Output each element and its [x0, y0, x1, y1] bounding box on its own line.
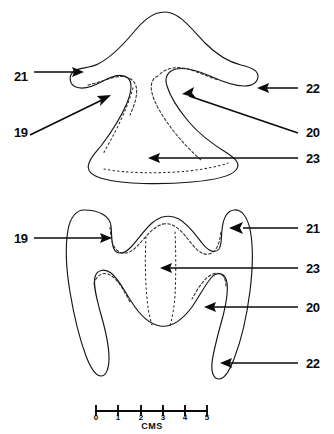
leader-bottom-21	[229, 222, 298, 234]
top-inner-contour-center	[151, 76, 201, 160]
label-bottom-23: 23	[306, 261, 320, 276]
bottom-specimen-outline	[66, 210, 252, 379]
scale-unit-label: CMS	[141, 421, 163, 431]
scale-label-0: 0	[94, 413, 99, 422]
label-top-19: 19	[14, 125, 28, 140]
bottom-inner-median-left	[145, 237, 152, 325]
leader-top-20	[182, 87, 298, 133]
bottom-inner-crown-right	[163, 224, 221, 255]
label-top-23: 23	[306, 151, 320, 166]
bottom-inner-lobe-left	[94, 274, 130, 302]
arrowhead-bottom-21	[229, 222, 243, 234]
scale-label-4: 4	[183, 413, 188, 422]
scale-bar: 0 1 2 3 4 5 CMS	[94, 405, 210, 431]
leader-bottom-20	[204, 302, 298, 312]
bottom-inner-crown-left	[110, 224, 163, 253]
leader-top-21	[34, 67, 84, 77]
top-inner-base-line	[104, 163, 228, 173]
top-specimen-view: 21 19 22 20 23	[14, 12, 320, 184]
specimen-illustration-svg: 21 19 22 20 23	[0, 0, 334, 434]
label-top-21: 21	[14, 69, 28, 84]
leader-top-19	[30, 95, 111, 135]
leader-bottom-22	[220, 358, 298, 368]
label-bottom-20: 20	[306, 300, 320, 315]
leader-bottom-19	[34, 233, 112, 243]
bottom-inner-lobe-right	[192, 273, 226, 299]
scale-label-1: 1	[116, 413, 121, 422]
label-bottom-22: 22	[306, 356, 320, 371]
figure-plate: 21 19 22 20 23	[0, 0, 334, 434]
scale-label-5: 5	[205, 413, 210, 422]
label-top-22: 22	[306, 81, 320, 96]
leader-top-22	[257, 83, 298, 93]
bottom-inner-median-right	[170, 232, 176, 326]
label-top-20: 20	[306, 125, 320, 140]
leader-top-23	[148, 153, 298, 163]
leader-bottom-23	[160, 263, 298, 273]
label-bottom-19: 19	[14, 231, 28, 246]
label-bottom-21: 21	[306, 221, 320, 236]
bottom-specimen-view: 19 21 23 20 22	[14, 210, 320, 379]
